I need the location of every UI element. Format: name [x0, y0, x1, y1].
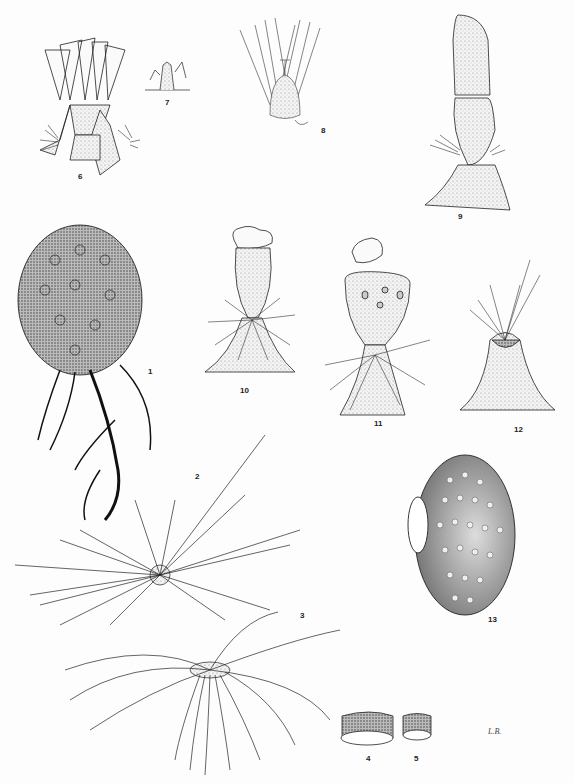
figure-11: [325, 238, 430, 415]
figure-8: [240, 18, 320, 125]
figure-3: [65, 612, 340, 775]
illustration-plate: 1 2 3 4 5 6 7 8 9 10 11 12 13 L.B.: [0, 0, 574, 783]
figure-4: [341, 712, 393, 745]
figure-label-4: 4: [366, 754, 370, 763]
figure-label-5: 5: [414, 754, 418, 763]
figure-label-12: 12: [514, 425, 523, 434]
figure-2: [15, 435, 300, 625]
figure-1: [18, 225, 151, 520]
figure-5: [403, 714, 431, 741]
figure-label-1: 1: [148, 367, 152, 376]
figure-label-9: 9: [458, 212, 462, 221]
figure-label-13: 13: [488, 615, 497, 624]
figure-label-3: 3: [300, 611, 304, 620]
figure-6: [40, 38, 140, 175]
figure-13: [408, 455, 515, 615]
figure-10: [205, 226, 295, 372]
artist-signature: L.B.: [488, 727, 501, 736]
figure-9: [425, 15, 510, 210]
plate-drawings: [0, 0, 574, 783]
figure-label-6: 6: [78, 172, 82, 181]
figure-7: [145, 62, 190, 90]
figure-label-10: 10: [240, 386, 249, 395]
figure-label-8: 8: [321, 126, 325, 135]
figure-label-7: 7: [165, 98, 169, 107]
figure-label-11: 11: [374, 419, 382, 428]
figure-label-2: 2: [195, 472, 199, 481]
figure-12: [460, 260, 555, 410]
